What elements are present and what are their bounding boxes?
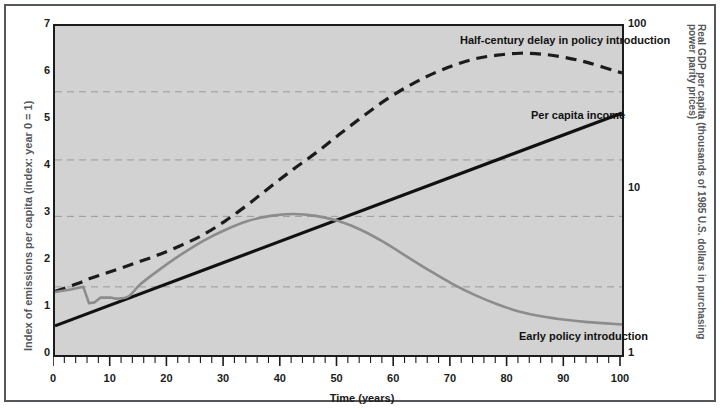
gridlines (55, 92, 622, 287)
x-tick-label-50: 50 (317, 373, 357, 384)
y-left-tick-3: 3 (24, 206, 50, 217)
x-tick-label-80: 80 (487, 373, 527, 384)
x-tick-label-30: 30 (203, 373, 243, 384)
y-left-tick-7: 7 (24, 18, 50, 29)
x-tick-label-20: 20 (146, 373, 186, 384)
x-axis-title: Time (years) (6, 392, 718, 404)
series-path-1 (55, 113, 622, 326)
y-left-tick-2: 2 (24, 253, 50, 264)
y-left-tick-4: 4 (24, 159, 50, 170)
y-left-tick-5: 5 (24, 112, 50, 123)
series-path-0 (55, 53, 622, 291)
y-left-tick-6: 6 (24, 65, 50, 76)
figure-frame: Index of emissions per capita (index: ye… (4, 4, 716, 402)
plot-svg (55, 26, 622, 355)
figure-container: Index of emissions per capita (index: ye… (0, 0, 724, 416)
x-tick-label-90: 90 (543, 373, 583, 384)
y-left-tick-1: 1 (24, 300, 50, 311)
x-tick-label-60: 60 (373, 373, 413, 384)
y-right-tick-1: 1 (628, 347, 658, 358)
x-axis-labels: 0102030405060708090100 (6, 373, 718, 389)
annotation-per-capita: Per capita income (531, 109, 625, 121)
x-tick-label-100: 100 (600, 373, 640, 384)
series-path-2 (55, 214, 622, 324)
y-right-tick-10: 10 (628, 182, 658, 193)
x-tick-label-70: 70 (430, 373, 470, 384)
y-axis-right-title: Real GDP per capita (thousands of 1985 U… (688, 24, 706, 357)
y-left-tick-0: 0 (24, 347, 50, 358)
plot-area: Half-century delay in policy introductio… (53, 24, 624, 357)
figure-caption (6, 406, 718, 416)
x-axis-ticks (53, 357, 624, 371)
data-curves (55, 53, 622, 326)
y-axis-left-ticks: 7 6 5 4 3 2 1 0 (20, 18, 50, 363)
x-tick-label-10: 10 (90, 373, 130, 384)
y-axis-right-title-wrap: Real GDP per capita (thousands of 1985 U… (706, 24, 724, 357)
y-right-tick-100: 100 (628, 18, 658, 29)
y-axis-right-ticks: 100 10 1 (628, 18, 664, 363)
annotation-early-policy: Early policy introduction (519, 330, 648, 342)
x-tick-label-40: 40 (260, 373, 300, 384)
x-tick-label-0: 0 (33, 373, 73, 384)
annotation-delay-policy: Half-century delay in policy introductio… (460, 34, 670, 46)
